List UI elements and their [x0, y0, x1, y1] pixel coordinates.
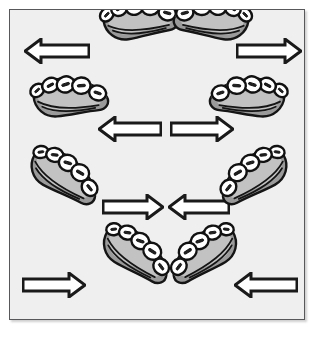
figure-title: Dental segment movement directions	[10, 10, 11, 11]
diagram-panel-inner: Dental segment movement directions Row 1…	[10, 10, 304, 319]
dental-force-diagram: Dental segment movement directions Row 1…	[0, 0, 317, 337]
row-4-label: Row 4 — segments centered, arrows pointi…	[10, 246, 11, 247]
arrow-left-inward	[234, 272, 298, 298]
row-2-label: Row 2 — segments at edges, arrows pointi…	[10, 90, 11, 91]
arrow-right-outward	[236, 38, 302, 64]
arrow-left-outward	[98, 116, 162, 142]
row-4: Row 4 — segments centered, arrows pointi…	[10, 246, 304, 319]
row-3-label: Row 3 — segments at edges, arrows pointi…	[10, 168, 11, 169]
row-1-label: Row 1 — segments centered, arrows pointi…	[10, 12, 11, 13]
arrow-right-inward	[22, 272, 86, 298]
diagram-panel: Dental segment movement directions Row 1…	[9, 9, 305, 320]
arrow-left-outward	[24, 38, 90, 64]
